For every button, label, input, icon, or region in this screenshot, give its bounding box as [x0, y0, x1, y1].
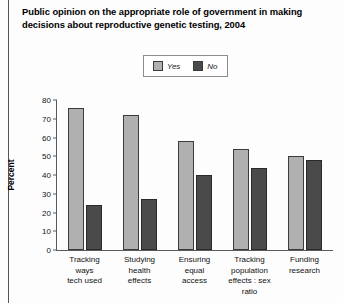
- bar-group-1: [57, 100, 112, 250]
- legend-swatch-no-icon: [193, 61, 203, 71]
- x-category-line: effects : sex ratio: [222, 276, 277, 297]
- bar-yes-3[interactable]: [178, 141, 194, 250]
- x-category-line: Tracking: [222, 255, 277, 266]
- x-category-line: Studying: [112, 255, 167, 266]
- x-category-line: Tracking: [57, 255, 112, 266]
- bar-yes-4[interactable]: [233, 149, 249, 250]
- plot-area: Percent 01020304050607080 Trackingwayste…: [57, 100, 332, 250]
- chart-title: Public opinion on the appropriate role o…: [22, 6, 334, 31]
- bar-group-2: [112, 100, 167, 250]
- left-border-rule: [8, 0, 9, 303]
- y-axis-label: Percent: [6, 159, 16, 190]
- x-category-line: equal: [167, 266, 222, 277]
- x-category-line: access: [167, 276, 222, 287]
- bar-no-5[interactable]: [306, 160, 322, 250]
- legend-label-yes: Yes: [167, 62, 180, 71]
- x-category-line: tech used: [57, 276, 112, 287]
- bar-group-3: [167, 100, 222, 250]
- legend-entry-yes[interactable]: Yes: [153, 61, 180, 71]
- x-category-line: health: [112, 266, 167, 277]
- x-category-line: research: [277, 266, 332, 277]
- bar-no-3[interactable]: [196, 175, 212, 250]
- bar-yes-5[interactable]: [288, 156, 304, 250]
- legend-entry-no[interactable]: No: [193, 61, 217, 71]
- legend-label-no: No: [207, 62, 217, 71]
- bar-no-4[interactable]: [251, 168, 267, 251]
- x-category-label-5: Fundingresearch: [277, 255, 332, 276]
- x-category-line: Funding: [277, 255, 332, 266]
- legend-swatch-yes-icon: [153, 61, 163, 71]
- x-axis-line: [56, 250, 333, 251]
- bar-group-5: [277, 100, 332, 250]
- bar-yes-1[interactable]: [68, 108, 84, 251]
- x-category-label-3: Ensuringequalaccess: [167, 255, 222, 287]
- x-category-line: ways: [57, 266, 112, 277]
- bar-no-1[interactable]: [86, 205, 102, 250]
- bar-yes-2[interactable]: [123, 115, 139, 250]
- x-category-line: effects: [112, 276, 167, 287]
- bar-group-4: [222, 100, 277, 250]
- chart-legend: Yes No: [143, 55, 228, 77]
- chart-figure: Public opinion on the appropriate role o…: [0, 0, 343, 303]
- x-category-line: population: [222, 266, 277, 277]
- x-category-label-4: Trackingpopulationeffects : sex ratio: [222, 255, 277, 297]
- x-category-line: Ensuring: [167, 255, 222, 266]
- bar-no-2[interactable]: [141, 199, 157, 250]
- x-category-label-1: Trackingwaystech used: [57, 255, 112, 287]
- x-category-label-2: Studyinghealtheffects: [112, 255, 167, 287]
